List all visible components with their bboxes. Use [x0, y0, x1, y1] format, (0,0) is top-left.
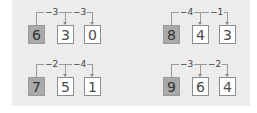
answer-box[interactable]: 0 [84, 25, 101, 44]
operation-label: −3 [72, 7, 87, 17]
start-number-box: 6 [28, 25, 45, 44]
subtraction-chain-3: −2 −4 7 5 1 [28, 64, 108, 104]
answer-box[interactable]: 5 [57, 77, 74, 96]
worksheet-panel: −3 −3 6 3 0 −4 −1 8 4 3 −2 −4 7 5 1 [12, 0, 250, 106]
operation-label: −4 [72, 59, 87, 69]
answer-box[interactable]: 3 [219, 25, 236, 44]
answer-box[interactable]: 4 [219, 77, 236, 96]
start-number-box: 9 [163, 77, 180, 96]
operation-label: −3 [44, 7, 59, 17]
answer-box[interactable]: 1 [84, 77, 101, 96]
start-number-box: 7 [28, 77, 45, 96]
subtraction-chain-2: −4 −1 8 4 3 [163, 12, 243, 52]
operation-label: −1 [209, 7, 224, 17]
answer-box[interactable]: 6 [192, 77, 209, 96]
operation-label: −3 [179, 59, 194, 69]
start-number-box: 8 [163, 25, 180, 44]
answer-box[interactable]: 4 [192, 25, 209, 44]
operation-label: −2 [207, 59, 222, 69]
operation-label: −4 [179, 7, 194, 17]
subtraction-chain-4: −3 −2 9 6 4 [163, 64, 243, 104]
operation-label: −2 [44, 59, 59, 69]
answer-box[interactable]: 3 [57, 25, 74, 44]
subtraction-chain-1: −3 −3 6 3 0 [28, 12, 108, 52]
